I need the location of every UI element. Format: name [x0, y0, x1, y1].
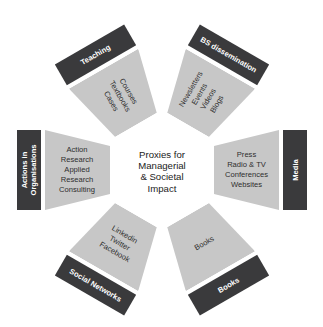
center-title-line-2: Managerial	[117, 160, 207, 171]
media-items-block: Press Radio & TV Conferences Websites	[214, 130, 279, 210]
item-applied: Applied	[60, 165, 96, 175]
item-research-1: Research	[60, 155, 96, 165]
item-radio-tv: Radio & TV	[225, 160, 268, 170]
books-label: Books	[216, 275, 241, 294]
item-research-2: Research	[60, 175, 96, 185]
actions-label-band: Actions in Organisations	[17, 130, 41, 210]
center-title-line-1: Proxies for	[117, 149, 207, 160]
actions-label-line-1: Actions in	[20, 144, 29, 195]
bs-items: Newsletters Events Videos Blogs	[177, 70, 231, 124]
media-items: Press Radio & TV Conferences Websites	[225, 150, 268, 190]
center-title-line-4: Impact	[117, 183, 207, 194]
actions-label-line-2: Organisations	[29, 144, 38, 195]
media-label: Media	[291, 159, 300, 181]
item-websites: Websites	[225, 180, 268, 190]
center-title-line-3: & Societal	[117, 171, 207, 182]
center-title: Proxies for Managerial & Societal Impact	[117, 149, 207, 194]
media-label-band: Media	[283, 130, 307, 210]
item-press: Press	[225, 150, 268, 160]
item-books: Books	[193, 234, 216, 253]
social-items: Linkedin Twitter Facebook	[98, 222, 142, 265]
impact-proxies-diagram: Press Radio & TV Conferences Websites Me…	[0, 0, 323, 327]
teaching-label: Teaching	[79, 43, 112, 67]
item-consulting: Consulting	[60, 185, 96, 195]
actions-items-block: Action Research Applied Research Consult…	[45, 130, 110, 210]
books-items: Books	[193, 234, 216, 253]
item-action: Action	[60, 145, 96, 155]
actions-items: Action Research Applied Research Consult…	[60, 145, 96, 195]
item-conferences: Conferences	[225, 170, 268, 180]
teaching-items: Courses Textbooks Cases	[98, 75, 141, 120]
